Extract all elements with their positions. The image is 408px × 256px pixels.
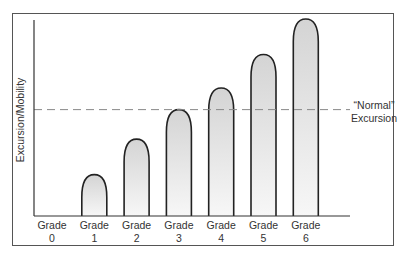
x-tick-label: 4 bbox=[218, 232, 224, 244]
x-tick-label: Grade bbox=[164, 219, 193, 231]
x-tick-label: Grade bbox=[37, 219, 66, 231]
x-tick-label: Grade bbox=[207, 219, 236, 231]
x-tick-label: 5 bbox=[261, 232, 267, 244]
x-tick-label: 3 bbox=[176, 232, 182, 244]
x-tick-label: Grade bbox=[122, 219, 151, 231]
x-tick-labels: Grade0Grade1Grade2Grade3Grade4Grade5Grad… bbox=[37, 219, 320, 244]
x-tick-label: 0 bbox=[49, 232, 55, 244]
bar-grade-5 bbox=[251, 54, 276, 216]
y-axis-label: Excursion/Mobility bbox=[14, 77, 26, 162]
x-tick-label: 2 bbox=[134, 232, 140, 244]
bar-grade-2 bbox=[124, 139, 149, 216]
reference-line-label-line2: Excursion bbox=[351, 112, 397, 124]
reference-line-label-line1: “Normal” bbox=[354, 99, 395, 111]
bars-group bbox=[82, 19, 318, 216]
x-tick-label: Grade bbox=[291, 219, 320, 231]
x-tick-label: Grade bbox=[80, 219, 109, 231]
bar-grade-4 bbox=[209, 88, 234, 216]
bar-grade-3 bbox=[166, 110, 191, 216]
bar-chart: Excursion/Mobility Grade0Grade1Grade2Gra… bbox=[0, 0, 408, 256]
x-tick-label: Grade bbox=[249, 219, 278, 231]
bar-grade-6 bbox=[293, 19, 318, 216]
bar-grade-1 bbox=[82, 175, 107, 216]
x-tick-label: 6 bbox=[303, 232, 309, 244]
x-tick-label: 1 bbox=[91, 232, 97, 244]
